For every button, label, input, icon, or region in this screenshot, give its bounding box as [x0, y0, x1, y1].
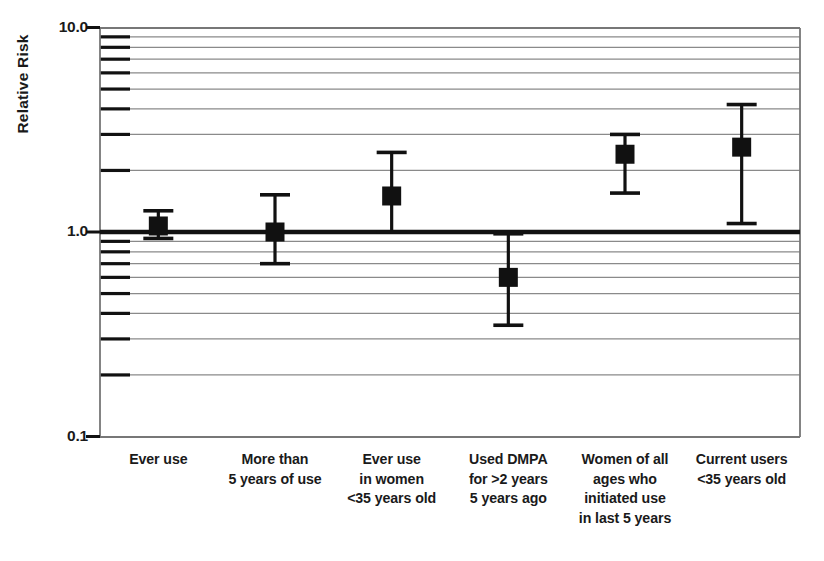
x-category-label-6-line-2: <35 years old	[672, 470, 812, 490]
x-category-label-6: Current users<35 years old	[672, 450, 812, 489]
point-marker-square	[616, 145, 635, 164]
y-major-ticks-group	[86, 28, 100, 437]
gridlines-group	[100, 37, 800, 375]
point-marker-square	[499, 268, 518, 287]
data-point-2	[260, 195, 290, 264]
data-points-group	[143, 105, 756, 326]
point-marker-square	[149, 216, 168, 235]
data-point-1	[143, 211, 173, 239]
point-marker-square	[732, 138, 751, 157]
y-minor-ticks-group	[100, 37, 130, 375]
data-point-3	[377, 152, 407, 232]
data-point-5	[610, 134, 640, 193]
x-category-label-6-line-1: Current users	[672, 450, 812, 470]
x-category-label-5-line-4: in last 5 years	[555, 509, 695, 529]
relative-risk-forest-chart: Relative Risk 10.0 1.0 0.1 Ever useMore …	[0, 0, 824, 561]
data-point-6	[727, 105, 757, 224]
point-marker-square	[382, 186, 401, 205]
x-category-label-5-line-3: initiated use	[555, 489, 695, 509]
data-point-4	[493, 234, 523, 325]
point-marker-square	[266, 223, 285, 242]
